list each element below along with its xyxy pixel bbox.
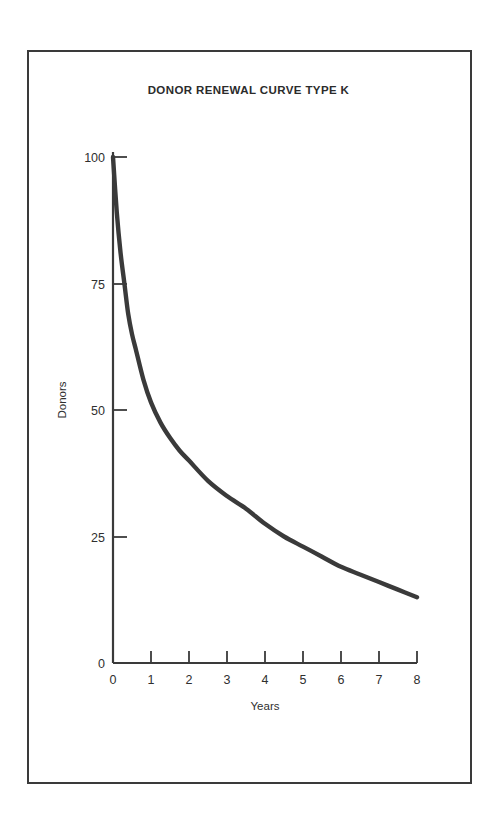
x-tick-label-3: 3 — [224, 673, 231, 687]
x-tick-label-4: 4 — [262, 673, 269, 687]
x-tick-label-2: 2 — [186, 673, 193, 687]
x-tick-label-1: 1 — [148, 673, 155, 687]
x-tick-label-5: 5 — [300, 673, 307, 687]
y-tick-label-50: 50 — [91, 404, 105, 418]
x-tick-label-0: 0 — [110, 673, 117, 687]
x-tick-label-7: 7 — [376, 673, 383, 687]
page-root: DONOR RENEWAL CURVE TYPE K 100 75 50 25 … — [0, 0, 497, 833]
x-axis-tick-labels: 0 1 2 3 4 5 6 7 8 — [110, 673, 421, 687]
chart-plot-area: 100 75 50 25 0 0 1 2 3 4 5 6 7 — [0, 0, 497, 833]
y-tick-label-0: 0 — [98, 657, 105, 671]
y-tick-label-75: 75 — [91, 278, 105, 292]
y-axis-tick-labels: 100 75 50 25 0 — [84, 151, 105, 671]
x-axis-ticks — [113, 651, 417, 663]
y-tick-label-100: 100 — [84, 151, 105, 165]
y-axis-title: Donors — [56, 381, 68, 418]
x-tick-label-8: 8 — [414, 673, 421, 687]
y-tick-label-25: 25 — [91, 531, 105, 545]
donor-renewal-curve — [113, 157, 417, 597]
x-tick-label-6: 6 — [338, 673, 345, 687]
x-axis-title: Years — [251, 700, 280, 712]
